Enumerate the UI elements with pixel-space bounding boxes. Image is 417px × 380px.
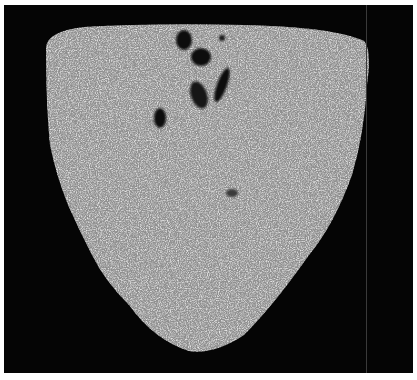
micrograph-panel [4,5,413,373]
weld-cross-section-image [4,5,413,373]
inclusion [226,189,238,197]
pore [154,108,166,128]
pore [191,48,211,66]
panel-divider-line [366,5,367,373]
edge-notch [68,230,80,240]
pore [176,30,192,50]
pore [219,35,225,41]
